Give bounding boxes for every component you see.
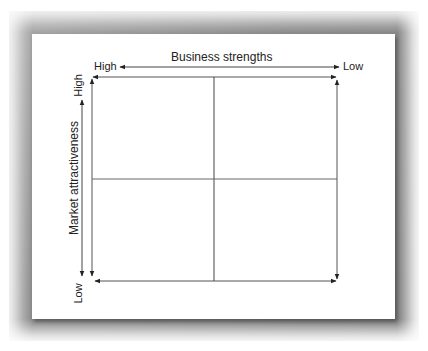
x-axis-title: Business strengths [171,51,272,63]
y-axis-high-label: High [73,71,84,101]
y-axis-low-label: Low [73,279,84,309]
x-axis-high-label: High [94,61,117,72]
x-axis-low-label: Low [343,61,363,72]
y-axis-title: Market attractiveness [68,118,80,238]
